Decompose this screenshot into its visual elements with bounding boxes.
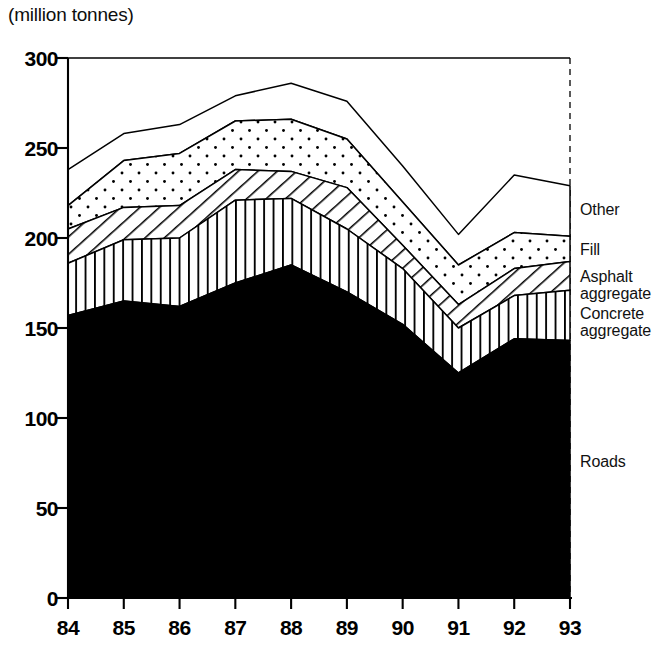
series-label-fill: Fill [580,242,600,259]
series-label-asphalt-aggregate: Asphalt aggregate [580,269,651,303]
series-inline-legend: OtherFillAsphalt aggregateConcrete aggre… [0,0,659,666]
series-label-other: Other [580,202,620,219]
series-label-concrete-aggregate: Concrete aggregate [580,306,651,340]
chart-figure: (million tonnes) [0,0,659,666]
series-label-roads: Roads [580,454,626,471]
